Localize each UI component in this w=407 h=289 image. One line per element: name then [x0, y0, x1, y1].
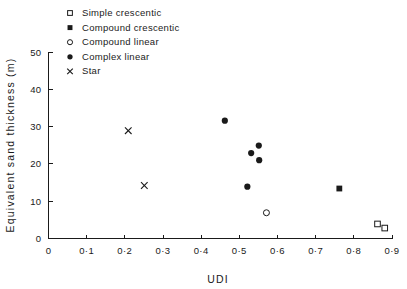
- x-tick-label: 0·5: [232, 245, 247, 256]
- marker-open-circle: [67, 40, 72, 45]
- x-tick-label: 0·8: [346, 245, 361, 256]
- x-axis-tick-labels: 00·10·20·30·40·50·60·70·80·9: [46, 245, 400, 256]
- x-tick-label: 0·9: [385, 245, 400, 256]
- legend-item: Complex linear: [67, 51, 149, 62]
- chart-canvas: 00·10·20·30·40·50·60·70·80·9 01020304050…: [0, 0, 407, 289]
- axes: [49, 52, 393, 239]
- x-tick-label: 0·2: [117, 245, 132, 256]
- y-axis-title: Equivalent sand thickness (m): [4, 58, 16, 233]
- marker-open-square: [375, 221, 381, 227]
- x-tick-label: 0·1: [79, 245, 94, 256]
- x-tick-label: 0·4: [194, 245, 209, 256]
- y-tick-label: 20: [30, 158, 41, 169]
- legend-item: Compound crescentic: [68, 22, 180, 33]
- y-tick-label: 40: [30, 84, 41, 95]
- data-points: [125, 118, 388, 231]
- y-tick-label: 0: [36, 233, 42, 244]
- axis-ticks: [49, 52, 393, 239]
- y-tick-label: 30: [30, 121, 41, 132]
- data-series: [336, 186, 342, 192]
- marker-cross: [125, 127, 132, 134]
- y-axis-tick-labels: 01020304050: [30, 47, 41, 245]
- marker-filled-circle: [248, 150, 254, 156]
- legend-item-label: Compound linear: [82, 36, 159, 47]
- legend-item-label: Compound crescentic: [82, 22, 180, 33]
- x-tick-label: 0·3: [156, 245, 171, 256]
- marker-cross: [141, 182, 148, 189]
- legend-item: Compound linear: [67, 36, 158, 47]
- marker-filled-square: [336, 186, 342, 192]
- legend: Simple crescenticCompound crescenticComp…: [67, 7, 179, 76]
- marker-filled-square: [68, 25, 73, 30]
- legend-item-label: Complex linear: [82, 51, 150, 62]
- data-series: [125, 127, 148, 188]
- marker-filled-circle: [244, 184, 250, 190]
- marker-open-square: [382, 225, 388, 231]
- marker-filled-circle: [256, 157, 262, 163]
- marker-filled-circle: [222, 118, 228, 124]
- marker-filled-circle: [67, 54, 72, 59]
- marker-filled-circle: [256, 143, 262, 149]
- legend-item: Simple crescentic: [68, 7, 162, 18]
- x-axis-title: UDI: [207, 273, 229, 285]
- data-series: [222, 118, 263, 190]
- x-tick-label: 0·7: [308, 245, 323, 256]
- legend-item: Star: [67, 65, 100, 76]
- y-tick-label: 50: [30, 47, 41, 58]
- marker-open-circle: [263, 210, 269, 216]
- marker-open-square: [68, 11, 73, 16]
- data-series: [263, 210, 269, 216]
- legend-item-label: Star: [82, 65, 101, 76]
- scatter-chart-figure: 00·10·20·30·40·50·60·70·80·9 01020304050…: [0, 0, 407, 289]
- data-series: [375, 221, 388, 231]
- legend-item-label: Simple crescentic: [82, 7, 162, 18]
- x-tick-label: 0: [46, 245, 52, 256]
- y-tick-label: 10: [30, 196, 41, 207]
- x-tick-label: 0·6: [270, 245, 285, 256]
- marker-cross: [67, 69, 73, 75]
